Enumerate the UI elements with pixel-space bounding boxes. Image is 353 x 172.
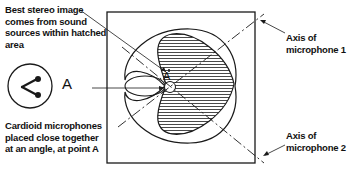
mic-inset-circle <box>8 64 52 108</box>
hatched-area-note: Best stereo image comes from sound sourc… <box>5 4 106 50</box>
axis-microphone-1-label: Axis of microphone 1 <box>286 32 346 55</box>
point-a-center-label: A <box>163 71 170 83</box>
point-a-inset-label: A <box>62 78 72 90</box>
axis-microphone-2-label: Axis of microphone 2 <box>286 130 346 153</box>
leader-axis-1 <box>262 21 285 33</box>
cardioid-microphones-icon <box>22 76 41 98</box>
microphone-placement-note: Cardioid microphones placed close togeth… <box>5 120 102 155</box>
hatched-area <box>140 30 240 140</box>
